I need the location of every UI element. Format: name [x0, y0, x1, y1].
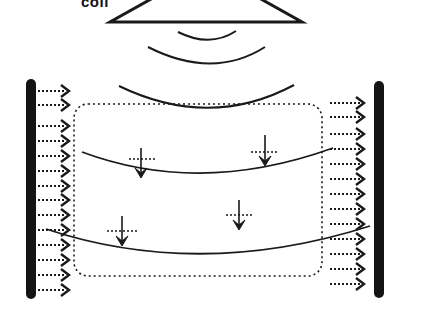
- right-field-arrows: [330, 97, 364, 290]
- wavefront-arc: [178, 31, 236, 40]
- field-line: [82, 148, 333, 173]
- sample-region-box: [74, 104, 322, 276]
- wavefront-arc: [148, 47, 265, 64]
- wavefront-arc: [119, 85, 294, 108]
- rf-wavefronts: [119, 31, 294, 108]
- diagram-canvas: [0, 0, 423, 334]
- mri-coil-diagram: coil: [0, 0, 423, 334]
- field-line: [46, 226, 370, 254]
- spin-arrow-icon: [107, 216, 138, 246]
- spin-arrow-icon: [226, 200, 254, 230]
- spin-arrow-icon: [129, 148, 157, 178]
- coil-triangle-icon: [110, 0, 302, 22]
- coil-outline: [110, 0, 302, 22]
- region-outline: [74, 104, 322, 276]
- spin-arrows: [107, 135, 279, 246]
- coil-label: coil: [81, 0, 109, 10]
- left-field-arrows: [38, 85, 69, 296]
- spin-arrow-icon: [251, 135, 279, 166]
